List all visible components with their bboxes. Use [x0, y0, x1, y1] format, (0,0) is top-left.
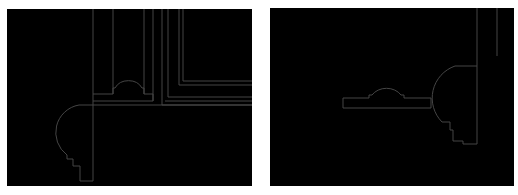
right-molding-profile-drawing — [270, 8, 514, 186]
left-molding-profile-drawing — [7, 9, 252, 186]
right-drawing-panel — [270, 8, 514, 186]
left-drawing-panel — [7, 9, 252, 186]
